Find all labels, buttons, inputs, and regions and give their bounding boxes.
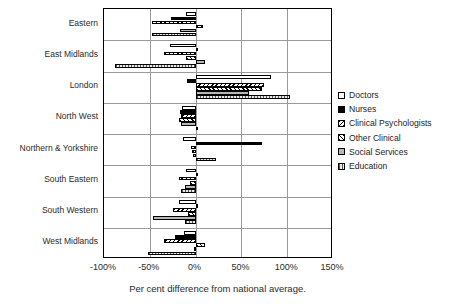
- legend-item-label: Nurses: [349, 104, 376, 114]
- bar-group-inner: [104, 72, 331, 103]
- legend-item: Clinical Psychologists: [338, 116, 462, 130]
- bar: [196, 60, 205, 64]
- bar: [179, 200, 195, 204]
- bar: [152, 21, 196, 25]
- legend-item-label: Education: [349, 161, 387, 171]
- bar: [148, 252, 196, 256]
- x-axis-tick-label: 50%: [217, 262, 263, 272]
- legend-item: Doctors: [338, 88, 462, 102]
- bar: [181, 122, 196, 126]
- bar-group-inner: [104, 197, 331, 228]
- legend-item: Nurses: [338, 102, 462, 116]
- legend-swatch-icon: [338, 134, 345, 141]
- bar-group-inner: [104, 228, 331, 259]
- bar: [181, 189, 196, 193]
- plot-area: [103, 8, 332, 258]
- bar-group-inner: [104, 165, 331, 196]
- x-axis-tick-label: -50%: [126, 262, 172, 272]
- bar-group: [104, 72, 331, 103]
- bar: [187, 79, 195, 83]
- legend-item-label: Clinical Psychologists: [349, 118, 432, 128]
- bar-group: [104, 165, 331, 196]
- y-axis-tick-label: East Midlands: [0, 50, 98, 59]
- bar-group-inner: [104, 9, 331, 40]
- legend-item-label: Other Clinical: [349, 133, 401, 143]
- bar: [186, 56, 195, 60]
- bar: [183, 137, 196, 141]
- legend: DoctorsNursesClinical PsychologistsOther…: [338, 88, 462, 173]
- bar: [186, 169, 195, 173]
- bar-group: [104, 197, 331, 228]
- bar-group-inner: [104, 103, 331, 134]
- chart-figure: EasternEast MidlandsLondonNorth WestNort…: [0, 0, 462, 306]
- y-axis-tick-label: North West: [0, 112, 98, 121]
- legend-item: Education: [338, 159, 462, 173]
- legend-swatch-icon: [338, 163, 345, 170]
- x-axis-tick-label: 0%: [172, 262, 218, 272]
- bar-group: [104, 40, 331, 71]
- legend-swatch-icon: [338, 148, 345, 155]
- bar: [170, 44, 196, 48]
- bar: [196, 243, 205, 247]
- bar: [196, 173, 198, 177]
- bar-group: [104, 9, 331, 40]
- bar: [196, 48, 198, 52]
- y-axis-tick-label: South Eastern: [0, 175, 98, 184]
- bar-group: [104, 134, 331, 165]
- bar: [185, 220, 196, 224]
- legend-swatch-icon: [338, 106, 345, 113]
- bar-group-inner: [104, 40, 331, 71]
- y-axis-tick-label: Eastern: [0, 19, 98, 28]
- bar: [196, 75, 271, 79]
- bar: [196, 95, 290, 99]
- bar: [196, 158, 216, 162]
- bar-group: [104, 103, 331, 134]
- legend-item-label: Social Services: [349, 147, 408, 157]
- legend-item: Social Services: [338, 145, 462, 159]
- bar: [196, 25, 203, 29]
- bar: [196, 204, 198, 208]
- bar: [152, 33, 196, 37]
- bar: [115, 64, 196, 68]
- y-axis-tick-label: Northern & Yorkshire: [0, 144, 98, 153]
- y-axis-tick-label: South Western: [0, 206, 98, 215]
- x-axis-label: Per cent difference from national averag…: [103, 283, 332, 294]
- x-axis-tick-label: -100%: [80, 262, 126, 272]
- bar-group-inner: [104, 134, 331, 165]
- legend-swatch-icon: [338, 92, 345, 99]
- legend-item-label: Doctors: [349, 90, 379, 100]
- legend-swatch-icon: [338, 120, 345, 127]
- bar: [196, 142, 263, 146]
- bar: [164, 239, 196, 243]
- x-axis-tick-label: 100%: [263, 262, 309, 272]
- bar: [196, 127, 198, 131]
- y-axis-tick-label: London: [0, 81, 98, 90]
- bar-group: [104, 228, 331, 259]
- legend-item: Other Clinical: [338, 131, 462, 145]
- y-axis-tick-label: West Midlands: [0, 237, 98, 246]
- x-axis-tick-label: 150%: [309, 262, 355, 272]
